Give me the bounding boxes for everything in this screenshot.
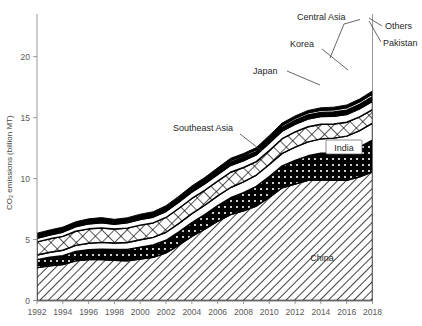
x-tick-label: 2018: [363, 307, 382, 317]
annotation-label-korea: Korea: [290, 39, 314, 49]
x-tick-label: 1994: [53, 307, 72, 317]
annotation-label-southeast-asia: Southeast Asia: [173, 123, 233, 133]
x-tick-label: 2006: [208, 307, 227, 317]
chart-canvas: 05101520 1992199419961998200020022004200…: [0, 0, 422, 326]
x-tick-label: 1992: [28, 307, 47, 317]
annotation-label-china: China: [310, 253, 334, 263]
y-tick-label: 10: [21, 174, 31, 184]
x-tick-label: 1998: [105, 307, 124, 317]
y-axis-title-group: CO₂ emissions (billion MT): [5, 115, 14, 210]
y-axis-title: CO₂ emissions (billion MT): [5, 115, 14, 210]
x-tick-label: 2000: [131, 307, 150, 317]
x-tick-label: 1996: [79, 307, 98, 317]
x-tick-label: 2014: [311, 307, 330, 317]
annotation-label-pakistan: Pakistan: [383, 38, 418, 48]
y-tick-label: 15: [21, 113, 31, 123]
x-tick-label: 2010: [260, 307, 279, 317]
annotation-label-others: Others: [385, 21, 413, 31]
x-tick-label: 2004: [182, 307, 201, 317]
x-tick-label: 2008: [234, 307, 253, 317]
annotation-china: China: [310, 253, 334, 263]
annotation-label-india: India: [334, 143, 354, 153]
annotation-label-japan: Japan: [253, 66, 278, 76]
y-tick-label: 20: [21, 52, 31, 62]
y-tick-label: 0: [25, 296, 30, 306]
y-tick-label: 5: [25, 235, 30, 245]
x-tick-label: 2002: [157, 307, 176, 317]
x-tick-label: 2012: [286, 307, 305, 317]
co2-emissions-area-chart: 05101520 1992199419961998200020022004200…: [0, 0, 422, 326]
annotation-india: India: [326, 140, 362, 154]
annotation-label-central-asia: Central Asia: [297, 12, 346, 22]
x-tick-label: 2016: [337, 307, 356, 317]
